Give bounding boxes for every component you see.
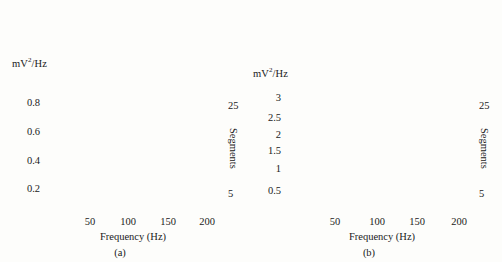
panel-a-xtick-1: 100 [114, 216, 142, 227]
panel-b-ytick-3: 2 [251, 129, 281, 140]
panel-b-x-axis-label: Frequency (Hz) [327, 231, 437, 242]
panel-b-ytick-2: 1.5 [251, 145, 281, 156]
panel-b-xtick-2: 150 [403, 216, 431, 227]
panel-a-ytick-2: 0.6 [8, 126, 40, 137]
panel-a-xtick-3: 200 [193, 216, 221, 227]
panel-b-xtick-1: 100 [363, 216, 391, 227]
panel-a-segment-tick-5: 5 [228, 188, 233, 199]
panel-b-ytick-0: 0.5 [251, 185, 281, 196]
panel-b-ytick-5: 3 [251, 92, 281, 103]
panel-b-ytick-4: 2.5 [251, 112, 281, 123]
panel-a-xtick-2: 150 [154, 216, 182, 227]
panel-b: mV2/Hz 0.5 1 1.5 2 2.5 3 50 100 150 200 … [251, 0, 502, 262]
panel-b-right-axis-label: Segments [479, 128, 490, 169]
panel-a-right-axis-label: Segments [228, 128, 239, 169]
panel-a-ytick-1: 0.4 [8, 155, 40, 166]
panel-b-y-axis-label: mV2/Hz [253, 66, 288, 79]
panel-a-ytick-0: 0.2 [8, 183, 40, 194]
panel-b-segment-tick-5: 5 [479, 188, 484, 199]
figure-waterfall-spectra: mV2/Hz 0.2 0.4 0.6 0.8 50 100 150 200 Fr… [0, 0, 502, 262]
panel-b-xtick-0: 50 [321, 216, 349, 227]
panel-b-ytick-1: 1 [251, 163, 281, 174]
panel-a-xtick-0: 50 [76, 216, 104, 227]
panel-a-tag: (a) [100, 247, 140, 258]
panel-a-segment-tick-25: 25 [228, 100, 239, 111]
panel-a-ytick-3: 0.8 [8, 97, 40, 108]
panel-a: mV2/Hz 0.2 0.4 0.6 0.8 50 100 150 200 Fr… [0, 0, 251, 262]
panel-b-segment-tick-25: 25 [479, 100, 490, 111]
panel-b-tag: (b) [349, 247, 389, 258]
panel-a-x-axis-label: Frequency (Hz) [78, 231, 188, 242]
panel-a-y-axis-label: mV2/Hz [12, 56, 47, 69]
panel-b-xtick-3: 200 [445, 216, 473, 227]
